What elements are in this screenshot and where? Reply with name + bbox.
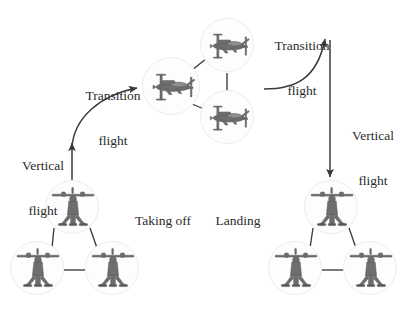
label-taking-off: Taking off	[127, 213, 199, 228]
tiltrotor-horizontal-icon	[201, 91, 255, 145]
aircraft-node-tk-left	[10, 241, 64, 295]
aircraft-node-ld-left	[268, 241, 322, 295]
label-vertical-flight-left: Vertical flight	[6, 128, 80, 248]
aircraft-node-ld-right	[343, 241, 397, 295]
label-transition-flight-right: Transition flight	[256, 8, 348, 128]
tiltrotor-vertical-icon	[344, 242, 398, 296]
label-vertical-flight-left-line2: flight	[6, 203, 80, 218]
label-vertical-flight-right-line2: flight	[336, 173, 410, 188]
label-vertical-flight-right: Vertical flight	[336, 98, 410, 218]
tiltrotor-vertical-icon	[86, 242, 140, 296]
label-transition-flight-right-line1: Transition	[256, 38, 348, 53]
label-transition-flight-left-line1: Transition	[68, 88, 158, 103]
diagram-canvas: Transition flight Transition flight Vert…	[0, 0, 413, 310]
label-landing: Landing	[207, 213, 269, 228]
label-transition-flight-right-line2: flight	[256, 83, 348, 98]
label-transition-flight-left: Transition flight	[68, 58, 158, 178]
tiltrotor-vertical-icon	[269, 242, 323, 296]
aircraft-node-tk-right	[85, 241, 139, 295]
aircraft-node-cr-top	[200, 18, 254, 72]
tiltrotor-horizontal-icon	[201, 19, 255, 73]
label-transition-flight-left-line2: flight	[68, 133, 158, 148]
label-vertical-flight-right-line1: Vertical	[336, 128, 410, 143]
aircraft-node-cr-bottom	[200, 90, 254, 144]
label-vertical-flight-left-line1: Vertical	[6, 158, 80, 173]
tiltrotor-vertical-icon	[11, 242, 65, 296]
